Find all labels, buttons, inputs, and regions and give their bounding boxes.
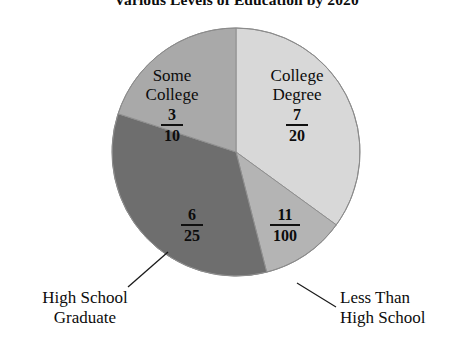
fraction-numerator: 3 [161, 107, 183, 124]
slice-label-high-school-graduate-fraction: 6 25 [155, 204, 229, 245]
fraction-numerator: 6 [181, 207, 203, 224]
slice-label-college-degree-line1: College [243, 66, 351, 85]
fraction-less-than-high-school: 11 100 [270, 207, 300, 244]
fraction-denominator: 20 [286, 127, 308, 144]
fraction-denominator: 100 [270, 227, 300, 244]
slice-label-college-degree-line2: Degree [243, 85, 351, 104]
callout-less-than-high-school-line1: Less Than [340, 288, 470, 308]
slice-label-some-college-line1: Some [118, 66, 226, 85]
fraction-bar [161, 124, 183, 126]
fraction-bar [181, 224, 203, 226]
fraction-college-degree: 7 20 [286, 107, 308, 144]
fraction-denominator: 25 [181, 227, 203, 244]
fraction-numerator: 11 [270, 207, 300, 224]
slice-label-some-college: Some College 3 10 [118, 66, 226, 145]
fraction-numerator: 7 [286, 107, 308, 124]
fraction-denominator: 10 [161, 127, 183, 144]
fraction-high-school-graduate: 6 25 [181, 207, 203, 244]
callout-label-high-school-graduate: High School Graduate [10, 288, 160, 328]
callout-label-less-than-high-school: Less Than High School [340, 288, 470, 328]
fraction-bar [270, 224, 300, 226]
callout-less-than-high-school-line2: High School [340, 308, 470, 328]
pie-chart-figure: Various Levels of Education by 2020 Some… [0, 0, 473, 337]
slice-label-less-than-high-school-fraction: 11 100 [248, 204, 322, 245]
leader-line-less-than-high-school [297, 283, 336, 307]
slice-label-college-degree: College Degree 7 20 [243, 66, 351, 145]
callout-high-school-graduate-line1: High School [10, 288, 160, 308]
slice-label-some-college-line2: College [118, 85, 226, 104]
callout-high-school-graduate-line2: Graduate [10, 308, 160, 328]
fraction-bar [286, 124, 308, 126]
fraction-some-college: 3 10 [161, 107, 183, 144]
pie-chart-graphic [0, 0, 473, 337]
leader-line-high-school-graduate [128, 252, 168, 287]
